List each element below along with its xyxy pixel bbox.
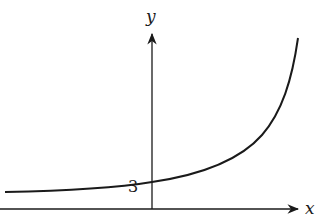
x-axis-label: x bbox=[305, 198, 315, 216]
chart-canvas: y x 3 bbox=[0, 0, 316, 216]
y-intercept-label: 3 bbox=[128, 177, 138, 196]
y-axis-label: y bbox=[145, 6, 156, 26]
